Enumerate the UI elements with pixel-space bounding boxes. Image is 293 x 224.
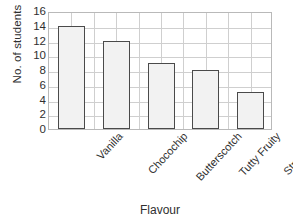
y-tick-label: 2 — [40, 110, 46, 122]
x-axis-title: Flavour — [48, 203, 272, 217]
y-axis-tick-labels: 0246810121416 — [24, 12, 46, 130]
x-tick-label: Butterscotch — [193, 130, 243, 183]
y-tick-label: 12 — [33, 36, 46, 48]
y-tick-label: 8 — [40, 65, 46, 77]
x-axis-tick-labels: VanillaChocochipButterscotchTutty Fruity… — [48, 130, 272, 192]
x-tick-label: Chocochip — [146, 130, 190, 176]
bar-chart: No. of students 0246810121416 VanillaCho… — [0, 0, 293, 224]
y-tick-label: 6 — [40, 80, 46, 92]
y-axis-title: No. of students — [11, 0, 23, 99]
y-tick-label: 16 — [33, 6, 46, 18]
bar-butterscotch — [148, 63, 175, 129]
bars-group — [49, 13, 271, 129]
y-tick-label: 14 — [33, 21, 46, 33]
y-tick-label: 10 — [33, 51, 46, 63]
bar-tutty-fruity — [192, 70, 219, 129]
plot-area — [48, 12, 272, 130]
y-tick-label: 4 — [40, 95, 46, 107]
x-tick-label: Vanilla — [95, 130, 126, 162]
bar-chocochip — [103, 41, 130, 130]
bar-vanilla — [58, 26, 85, 129]
y-tick-label: 0 — [40, 124, 46, 136]
bar-strawberry — [237, 92, 264, 129]
